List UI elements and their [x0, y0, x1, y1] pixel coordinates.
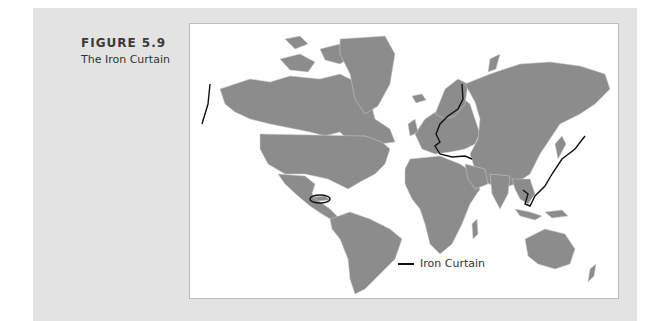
legend-line-swatch [398, 263, 414, 265]
legend-label: Iron Curtain [420, 257, 485, 270]
figure-number: FIGURE 5.9 [81, 36, 170, 50]
figure-title: The Iron Curtain [81, 53, 170, 66]
figure-caption: FIGURE 5.9 The Iron Curtain [81, 36, 170, 66]
world-map: Iron Curtain [189, 23, 619, 299]
map-legend: Iron Curtain [398, 257, 485, 270]
